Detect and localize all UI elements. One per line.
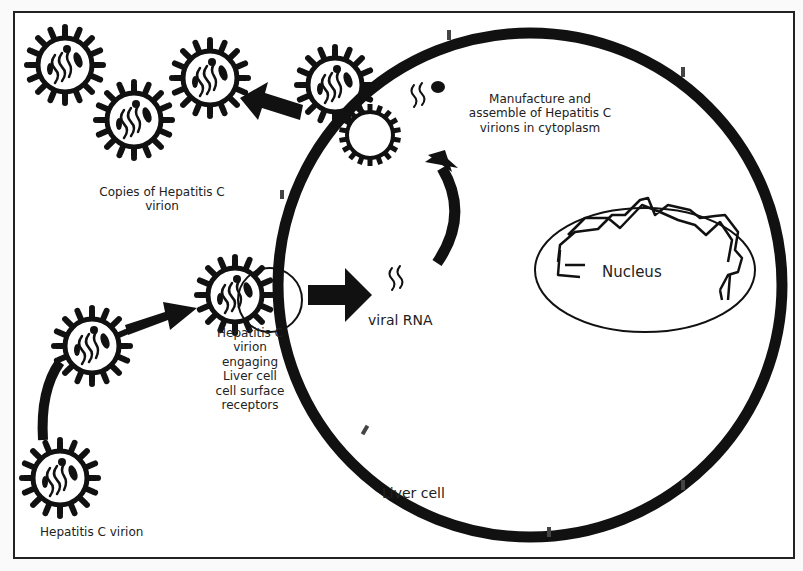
label-line: Hepatitis C [200,326,300,340]
label-line: receptors [200,398,300,412]
label-line: cell surface [200,384,300,398]
label-line: virion [92,199,232,213]
label-line: Copies of Hepatitis C [92,185,232,199]
label-liver-cell: Liver cell [382,485,445,502]
label-line: engaging [200,355,300,369]
label-virion: Hepatitis C virion [40,525,143,539]
label-line: assemble of Hepatitis C [460,106,620,120]
label-line: Liver cell [200,369,300,383]
label-line: virion [200,340,300,354]
protein-blob [431,81,445,93]
label-nucleus: Nucleus [602,263,662,281]
label-viral-rna: viral RNA [368,312,433,329]
label-line: Manufacture and [460,92,620,106]
label-line: virions in cytoplasm [460,121,620,135]
label-manufacture: Manufacture and assemble of Hepatitis C … [460,92,620,135]
label-copies-virion: Copies of Hepatitis C virion [92,185,232,214]
label-engaging: Hepatitis C virion engaging Liver cell c… [200,326,300,412]
